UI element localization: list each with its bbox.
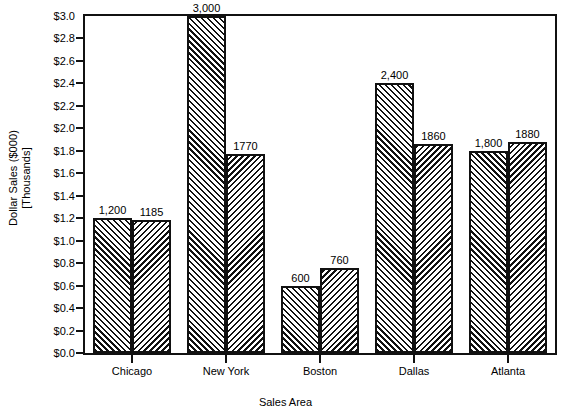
bar-value-label: 1770 (218, 140, 273, 152)
bar[interactable] (132, 220, 171, 353)
y-tick-label: $0.0 (0, 346, 83, 360)
x-tick-label: Atlanta (491, 365, 525, 378)
bar-value-label: 2,400 (367, 69, 422, 81)
bar[interactable] (375, 83, 414, 353)
bar[interactable] (414, 144, 453, 353)
x-tick-mark (225, 355, 227, 363)
bar-group: 2,4001860 (375, 16, 453, 353)
y-tick-label: $1.8 (0, 144, 83, 158)
bar[interactable] (508, 142, 547, 353)
bar[interactable] (93, 218, 132, 353)
x-axis-title: Sales Area (0, 396, 571, 409)
bar[interactable] (469, 151, 508, 353)
y-tick-label: $0.6 (0, 279, 83, 293)
bar-group: 1,8001880 (469, 16, 547, 353)
bar-group: 3,0001770 (187, 16, 265, 353)
x-tick-label: Boston (303, 365, 337, 378)
bar-group: 1,2001185 (93, 16, 171, 353)
x-tick-label: Dallas (399, 365, 430, 378)
y-tick-label: $1.0 (0, 234, 83, 248)
bar[interactable] (226, 154, 265, 353)
y-tick-label: $2.0 (0, 121, 83, 135)
bar-value-label: 760 (312, 254, 367, 266)
x-tick-mark (413, 355, 415, 363)
bar-chart: Dollar Sales ($000) [Thousands] $0.0$0.2… (0, 0, 571, 414)
y-tick-label-text: $3.0 (54, 9, 83, 23)
bar-value-label: 3,000 (179, 2, 234, 14)
bar[interactable] (320, 268, 359, 353)
bar-value-label: 1860 (406, 130, 461, 142)
y-tick-label: $2.6 (0, 54, 83, 68)
x-tick-mark (319, 355, 321, 363)
y-tick-label: $1.4 (0, 189, 83, 203)
y-tick-label: $0.4 (0, 301, 83, 315)
x-tick-label: Chicago (112, 365, 152, 378)
x-tick-mark (131, 355, 133, 363)
bar-value-label: 1880 (500, 128, 555, 140)
y-tick-label: $3.0 (0, 9, 83, 23)
y-tick-label: $2.8 (0, 31, 83, 45)
x-tick-mark (507, 355, 509, 363)
y-tick-label: $1.2 (0, 211, 83, 225)
bars-layer: 1,20011853,00017706007602,40018601,80018… (85, 16, 555, 353)
x-tick-label: New York (203, 365, 249, 378)
bar-group: 600760 (281, 16, 359, 353)
bar[interactable] (187, 16, 226, 353)
y-tick-label: $0.2 (0, 324, 83, 338)
bar[interactable] (281, 286, 320, 353)
y-tick-label: $2.4 (0, 76, 83, 90)
y-tick-label: $1.6 (0, 166, 83, 180)
y-tick-label: $0.8 (0, 256, 83, 270)
bar-value-label: 1185 (124, 206, 179, 218)
y-tick-label: $2.2 (0, 99, 83, 113)
